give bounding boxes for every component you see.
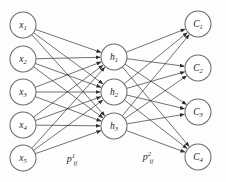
- edge-h3-to-C2: [125, 76, 187, 119]
- weight-labels-group: p1ijp2ij: [66, 150, 154, 166]
- edge-x4-to-h1: [34, 65, 103, 117]
- node-x3: x3: [10, 79, 36, 105]
- node-x5: x5: [10, 145, 36, 171]
- neural-network-diagram: x1x2x3x4x5h1h2h3C1C2C3C4 p1ijp2ij: [0, 0, 226, 182]
- nodes-group: x1x2x3x4x5h1h2h3C1C2C3C4: [10, 11, 211, 171]
- hidden-output-weight-label: p2ij: [142, 150, 154, 164]
- input-hidden-weight-label: p1ij: [66, 152, 78, 166]
- node-x1: x1: [10, 12, 36, 38]
- edges-input-to-hidden: [32, 29, 105, 153]
- edge-h1-to-C2: [127, 59, 184, 67]
- node-h2: h2: [101, 79, 127, 105]
- node-C2: C2: [185, 55, 211, 81]
- edge-h1-to-C4: [122, 67, 189, 146]
- node-x2: x2: [10, 46, 36, 72]
- edge-h3-to-C4: [126, 131, 185, 153]
- edge-x5-to-h1: [32, 67, 105, 148]
- node-C1: C1: [185, 11, 211, 37]
- edge-h1-to-C3: [125, 64, 186, 104]
- node-h1: h1: [101, 44, 127, 70]
- edge-h1-to-C1: [126, 29, 185, 52]
- network-svg-canvas: x1x2x3x4x5h1h2h3C1C2C3C4 p1ijp2ij: [0, 0, 226, 182]
- edge-h3-to-C1: [122, 35, 189, 116]
- edge-x1-to-h1: [35, 29, 101, 52]
- node-x4: x4: [10, 112, 36, 138]
- edge-h3-to-C3: [127, 114, 184, 124]
- edges-hidden-to-output: [122, 29, 189, 152]
- node-C4: C4: [185, 144, 211, 170]
- node-h3: h3: [101, 113, 127, 139]
- node-C3: C3: [185, 99, 211, 125]
